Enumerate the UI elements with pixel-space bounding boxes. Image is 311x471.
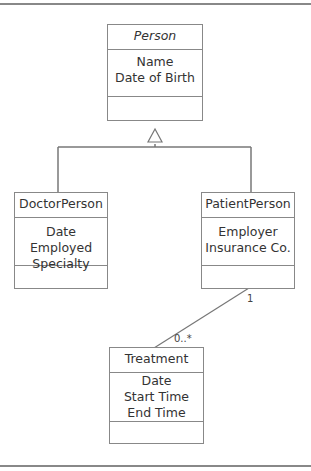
class-person-attributes: Name Date of Birth [108,49,202,96]
association-patient-treatment [154,288,249,348]
class-patient-operations [202,265,294,289]
multiplicity-patient-end: 1 [247,293,253,304]
class-doctor-person[interactable]: DoctorPerson Date Employed Specialty [14,192,108,289]
attribute: Date Employed [15,224,107,256]
class-patient-person[interactable]: PatientPerson Employer Insurance Co. [201,192,295,289]
multiplicity-treatment-end: 0..* [174,333,192,344]
class-person-operations [108,96,202,121]
class-doctor-name: DoctorPerson [15,193,107,217]
attribute: End Time [110,405,203,421]
attribute: Date [110,373,203,389]
attribute: Insurance Co. [202,240,294,256]
class-treatment-name: Treatment [110,348,203,372]
class-treatment[interactable]: Treatment Date Start Time End Time [109,347,204,444]
attribute: Start Time [110,389,203,405]
class-doctor-attributes: Date Employed Specialty [15,217,107,265]
attribute: Employer [202,224,294,240]
class-treatment-attributes: Date Start Time End Time [110,372,203,421]
attribute: Date of Birth [108,70,202,86]
class-person-name: Person [108,25,202,49]
class-person[interactable]: Person Name Date of Birth [107,24,203,121]
class-patient-name: PatientPerson [202,193,294,217]
class-treatment-operations [110,421,203,446]
class-patient-attributes: Employer Insurance Co. [202,217,294,265]
generalization-arrowhead [148,129,162,142]
attribute: Name [108,54,202,70]
